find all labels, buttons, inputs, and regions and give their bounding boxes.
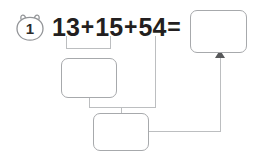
worksheet-problem-canvas: 1 13+15+54=: [0, 0, 258, 158]
equation-term-3: 54: [139, 13, 167, 42]
answer-box-partial-sum-2[interactable]: [93, 113, 149, 151]
equation-equals-sign: =: [166, 14, 181, 41]
equation-operator-1: +: [80, 14, 95, 41]
equation: 13+15+54=: [52, 13, 182, 41]
connector-join-bar: [89, 107, 156, 108]
problem-number-badge: 1: [14, 13, 46, 42]
equation-operator-2: +: [123, 14, 138, 41]
answer-box-partial-sum-1[interactable]: [61, 58, 117, 98]
connector-term3-drop: [155, 36, 156, 107]
answer-box-total[interactable]: [190, 10, 247, 53]
bracket-bar-first-sum: [66, 48, 111, 49]
problem-number-label: 1: [14, 19, 46, 39]
connector-result-horizontal: [149, 131, 221, 132]
connector-result-riser: [220, 56, 221, 132]
